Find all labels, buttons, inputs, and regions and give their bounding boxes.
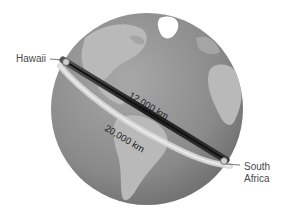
hawaii-label: Hawaii xyxy=(16,53,46,65)
globe-svg: 12,000 km 20,000 km xyxy=(0,0,287,221)
south-africa-label-line2: Africa xyxy=(244,173,270,185)
globe-diagram: 12,000 km 20,000 km Hawaii South Africa xyxy=(0,0,287,221)
south-africa-label-line1: South xyxy=(244,161,270,173)
south-africa-label: South Africa xyxy=(244,161,270,185)
hawaii-marker xyxy=(63,59,70,66)
south-africa-marker xyxy=(221,158,228,165)
